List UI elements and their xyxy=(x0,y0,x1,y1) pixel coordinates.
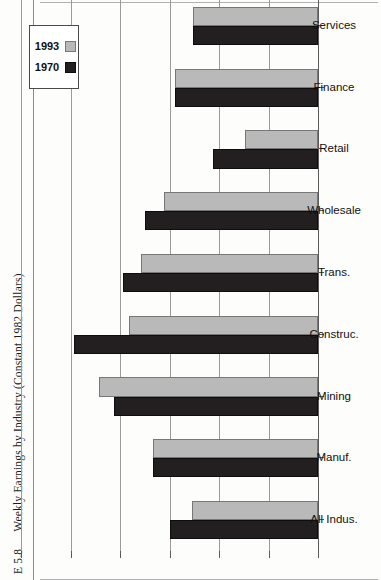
legend-label-1993: 1993 xyxy=(41,32,53,62)
legend-swatch-1993 xyxy=(65,41,76,52)
category-label-services: Services xyxy=(297,19,371,33)
category-label-allindus: All Indus. xyxy=(297,513,371,527)
category-label-finance: Finance xyxy=(297,81,371,95)
legend-swatch-1970 xyxy=(65,62,76,73)
value-tick-500 xyxy=(71,551,72,558)
category-label-retail: Retail xyxy=(297,142,371,156)
chart-legend: 1970 1993 xyxy=(29,25,79,89)
value-tick-600 xyxy=(21,551,22,558)
legend-item-1993: 1993 xyxy=(32,41,76,53)
bar-1993-mining xyxy=(99,377,318,396)
bar-1970-manuf xyxy=(153,458,318,477)
value-tick-0 xyxy=(318,551,319,558)
category-label-mining: Mining xyxy=(297,390,371,404)
value-tick-400 xyxy=(120,551,121,558)
value-tick-300 xyxy=(170,551,171,558)
value-tick-200 xyxy=(219,551,220,558)
chart-stage: $0$100$200$300$400$500$600 All Indus.Man… xyxy=(17,0,365,563)
bar-1993-construc xyxy=(129,316,318,335)
category-label-trans: Trans. xyxy=(297,266,371,280)
bar-1970-wholesale xyxy=(145,211,318,230)
legend-item-1970: 1970 xyxy=(32,62,76,74)
bar-1970-mining xyxy=(114,397,318,416)
category-label-manuf: Manuf. xyxy=(297,451,371,465)
bar-1970-construc xyxy=(74,335,318,354)
bar-1993-manuf xyxy=(153,439,318,458)
bar-1993-wholesale xyxy=(164,192,318,211)
value-tick-100 xyxy=(269,551,270,558)
figure-page: E 5.8 Weekly Earnings by Industry (Const… xyxy=(0,0,381,580)
gridline-400 xyxy=(120,0,121,551)
bar-1993-trans xyxy=(141,254,318,273)
category-label-construc: Construc. xyxy=(297,328,371,342)
bar-1970-allindus xyxy=(170,520,319,539)
gridline-600 xyxy=(21,0,22,551)
bar-1970-trans xyxy=(123,273,318,292)
category-label-wholesale: Wholesale xyxy=(297,204,371,218)
